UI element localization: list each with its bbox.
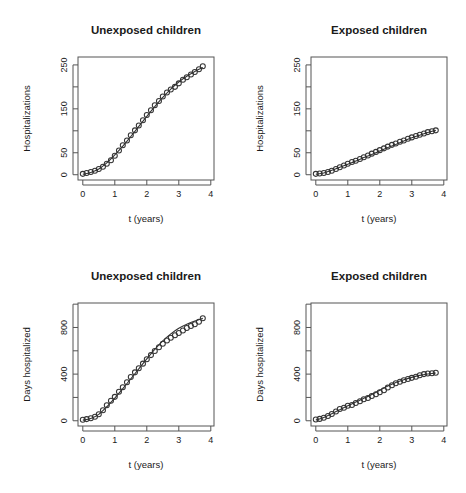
- y-axis: 0400800: [292, 304, 311, 423]
- data-point: [112, 153, 117, 158]
- y-tick-label: 250: [292, 57, 302, 72]
- y-axis: 050150250: [59, 57, 78, 177]
- x-axis-label: t (years): [362, 213, 397, 224]
- chart-hosp_exposed: Exposed children050150250Hospitalization…: [233, 0, 466, 246]
- panel-title: Exposed children: [331, 24, 427, 36]
- x-axis: 01234: [80, 426, 213, 445]
- x-tick-label: 1: [112, 189, 117, 199]
- plot-frame: [311, 303, 447, 426]
- x-tick-label: 2: [377, 435, 382, 445]
- data-point: [120, 143, 125, 148]
- data-points: [80, 316, 205, 423]
- x-axis-label: t (years): [129, 213, 164, 224]
- x-tick-label: 3: [409, 435, 414, 445]
- y-tick-label: 400: [292, 367, 302, 382]
- y-tick-label: 0: [59, 418, 69, 423]
- fitted-curve: [83, 318, 203, 420]
- y-tick-label: 0: [59, 172, 69, 177]
- y-tick-label: 0: [292, 418, 302, 423]
- panel-hosp-exposed: Exposed children050150250Hospitalization…: [233, 0, 466, 246]
- panel-title: Exposed children: [331, 270, 427, 282]
- panel-days-unexposed: Unexposed children0400800Days hospitaliz…: [0, 246, 233, 492]
- x-axis-label: t (years): [362, 459, 397, 470]
- panel-title: Unexposed children: [91, 270, 201, 282]
- x-tick-label: 4: [441, 189, 446, 199]
- x-tick-label: 4: [441, 435, 446, 445]
- x-tick-label: 0: [80, 435, 85, 445]
- x-axis: 01234: [80, 180, 213, 199]
- chart-days_unexposed: Unexposed children0400800Days hospitaliz…: [0, 246, 233, 492]
- x-tick-label: 3: [409, 189, 414, 199]
- y-tick-label: 50: [59, 148, 69, 158]
- x-axis: 01234: [313, 426, 446, 445]
- data-point: [160, 94, 165, 99]
- data-points: [313, 370, 438, 422]
- x-tick-label: 2: [377, 189, 382, 199]
- y-axis-label: Days hospitalized: [21, 327, 32, 401]
- data-point: [200, 316, 205, 321]
- y-tick-label: 50: [292, 148, 302, 158]
- y-tick-label: 150: [292, 101, 302, 116]
- x-tick-label: 3: [176, 435, 181, 445]
- x-tick-label: 0: [313, 435, 318, 445]
- data-points: [80, 64, 205, 177]
- y-tick-label: 800: [292, 320, 302, 335]
- y-axis-label: Days hospitalized: [254, 327, 265, 401]
- y-tick-label: 400: [59, 367, 69, 382]
- x-tick-label: 0: [313, 189, 318, 199]
- plot-frame: [311, 57, 447, 180]
- panel-hosp-unexposed: Unexposed children050150250Hospitalizati…: [0, 0, 233, 246]
- chart-hosp_unexposed: Unexposed children050150250Hospitalizati…: [0, 0, 233, 246]
- y-tick-label: 250: [59, 57, 69, 72]
- y-axis-label: Hospitalizations: [21, 85, 32, 152]
- x-tick-label: 1: [345, 435, 350, 445]
- x-tick-label: 1: [345, 189, 350, 199]
- y-axis: 050150250: [292, 57, 311, 177]
- y-tick-label: 150: [59, 101, 69, 116]
- chart-days_exposed: Exposed children0400800Days hospitalized…: [233, 246, 466, 492]
- panel-days-exposed: Exposed children0400800Days hospitalized…: [233, 246, 466, 492]
- x-tick-label: 2: [144, 435, 149, 445]
- y-axis: 0400800: [59, 304, 78, 423]
- y-axis-label: Hospitalizations: [254, 85, 265, 152]
- x-tick-label: 4: [208, 435, 213, 445]
- x-tick-label: 4: [208, 189, 213, 199]
- panel-title: Unexposed children: [91, 24, 201, 36]
- figure-panel-grid: Unexposed children050150250Hospitalizati…: [0, 0, 466, 493]
- fitted-curve: [83, 68, 203, 175]
- x-tick-label: 1: [112, 435, 117, 445]
- x-tick-label: 0: [80, 189, 85, 199]
- y-tick-label: 800: [59, 320, 69, 335]
- x-axis: 01234: [313, 180, 446, 199]
- x-axis-label: t (years): [129, 459, 164, 470]
- x-tick-label: 3: [176, 189, 181, 199]
- x-tick-label: 2: [144, 189, 149, 199]
- y-tick-label: 0: [292, 172, 302, 177]
